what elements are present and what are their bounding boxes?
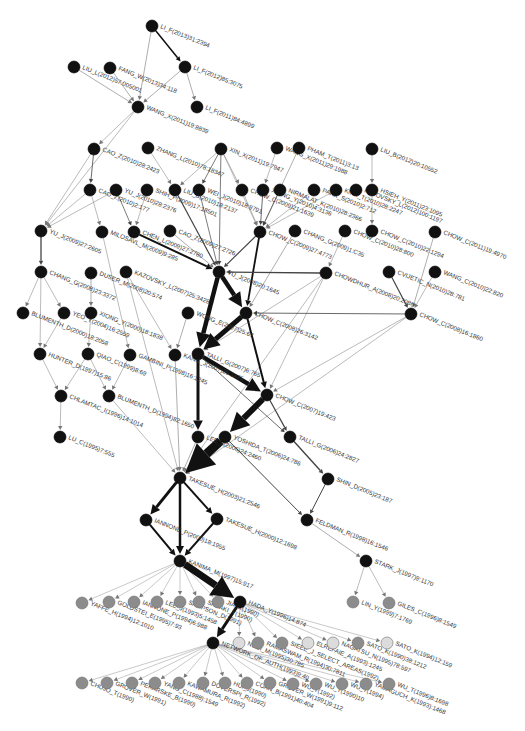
node-circle[interactable] bbox=[429, 226, 441, 238]
node-circle[interactable] bbox=[182, 307, 194, 319]
node-circle[interactable] bbox=[197, 677, 209, 689]
node-circle[interactable] bbox=[88, 143, 100, 155]
node-circle[interactable] bbox=[381, 637, 393, 649]
paper-node[interactable]: WANG_C(2010)22:820 bbox=[429, 266, 505, 299]
node-circle[interactable] bbox=[252, 637, 264, 649]
node-circle[interactable] bbox=[211, 513, 223, 525]
paper-node[interactable]: LI_F(2012)85:3075 bbox=[179, 61, 245, 90]
node-circle[interactable] bbox=[213, 266, 225, 278]
node-circle[interactable] bbox=[104, 62, 116, 74]
node-circle[interactable] bbox=[212, 596, 224, 608]
node-circle[interactable] bbox=[360, 678, 372, 690]
node-circle[interactable] bbox=[126, 677, 138, 689]
node-circle[interactable] bbox=[429, 266, 441, 278]
node-circle[interactable] bbox=[320, 267, 332, 279]
node-circle[interactable] bbox=[207, 637, 219, 649]
node-circle[interactable] bbox=[191, 101, 203, 113]
node-circle[interactable] bbox=[142, 142, 154, 154]
node-circle[interactable] bbox=[120, 266, 132, 278]
node-circle[interactable] bbox=[34, 348, 46, 360]
node-circle[interactable] bbox=[366, 143, 378, 155]
node-circle[interactable] bbox=[110, 184, 122, 196]
node-circle[interactable] bbox=[85, 307, 97, 319]
node-circle[interactable] bbox=[169, 349, 181, 361]
paper-node[interactable]: STARK_J(1997)9:1170 bbox=[360, 555, 435, 588]
paper-node[interactable]: TAKESUE_H(2003)21:2546 bbox=[174, 472, 262, 510]
node-circle[interactable] bbox=[151, 596, 163, 608]
node-circle[interactable] bbox=[219, 677, 231, 689]
node-circle[interactable] bbox=[84, 184, 96, 196]
node-circle[interactable] bbox=[264, 677, 276, 689]
node-circle[interactable] bbox=[383, 266, 395, 278]
node-circle[interactable] bbox=[293, 142, 305, 154]
node-circle[interactable] bbox=[132, 101, 144, 113]
node-circle[interactable] bbox=[101, 677, 113, 689]
node-circle[interactable] bbox=[241, 677, 253, 689]
node-circle[interactable] bbox=[308, 184, 320, 196]
node-circle[interactable] bbox=[35, 225, 47, 237]
node-circle[interactable] bbox=[347, 596, 359, 608]
node-circle[interactable] bbox=[174, 472, 186, 484]
node-circle[interactable] bbox=[405, 308, 417, 320]
node-circle[interactable] bbox=[140, 514, 152, 526]
node-circle[interactable] bbox=[236, 184, 248, 196]
node-circle[interactable] bbox=[284, 431, 296, 443]
paper-node[interactable]: LIU_B(2012)20:10552 bbox=[366, 143, 439, 175]
node-circle[interactable] bbox=[76, 677, 88, 689]
node-circle[interactable] bbox=[193, 596, 205, 608]
node-circle[interactable] bbox=[76, 597, 88, 609]
node-circle[interactable] bbox=[276, 637, 288, 649]
node-circle[interactable] bbox=[383, 597, 395, 609]
node-circle[interactable] bbox=[257, 184, 269, 196]
node-circle[interactable] bbox=[301, 514, 313, 526]
node-circle[interactable] bbox=[58, 307, 70, 319]
node-circle[interactable] bbox=[336, 678, 348, 690]
node-circle[interactable] bbox=[289, 225, 301, 237]
node-circle[interactable] bbox=[128, 596, 140, 608]
node-circle[interactable] bbox=[271, 142, 283, 154]
node-circle[interactable] bbox=[287, 678, 299, 690]
paper-node[interactable]: CHOW_C(2008)16:1860 bbox=[405, 308, 485, 343]
node-circle[interactable] bbox=[68, 61, 80, 73]
node-circle[interactable] bbox=[219, 431, 231, 443]
node-circle[interactable] bbox=[192, 431, 204, 443]
node-circle[interactable] bbox=[179, 61, 191, 73]
node-circle[interactable] bbox=[55, 390, 67, 402]
node-circle[interactable] bbox=[174, 596, 186, 608]
node-circle[interactable] bbox=[234, 596, 246, 608]
node-circle[interactable] bbox=[85, 267, 97, 279]
node-circle[interactable] bbox=[169, 184, 181, 196]
node-circle[interactable] bbox=[103, 390, 115, 402]
node-circle[interactable] bbox=[82, 348, 94, 360]
node-circle[interactable] bbox=[192, 348, 204, 360]
node-circle[interactable] bbox=[35, 266, 47, 278]
node-circle[interactable] bbox=[327, 637, 339, 649]
node-circle[interactable] bbox=[103, 596, 115, 608]
node-circle[interactable] bbox=[146, 20, 158, 32]
node-circle[interactable] bbox=[339, 225, 351, 237]
node-circle[interactable] bbox=[274, 184, 286, 196]
node-circle[interactable] bbox=[164, 225, 176, 237]
node-circle[interactable] bbox=[174, 555, 186, 567]
node-circle[interactable] bbox=[261, 389, 273, 401]
paper-node[interactable]: LI_F(2013)31:2394 bbox=[146, 20, 212, 49]
node-circle[interactable] bbox=[193, 184, 205, 196]
node-circle[interactable] bbox=[240, 307, 252, 319]
paper-node[interactable]: YU_J(2009)27:2605 bbox=[35, 225, 103, 255]
node-circle[interactable] bbox=[124, 349, 136, 361]
node-circle[interactable] bbox=[128, 226, 140, 238]
node-circle[interactable] bbox=[322, 473, 334, 485]
node-circle[interactable] bbox=[302, 637, 314, 649]
node-circle[interactable] bbox=[54, 431, 66, 443]
node-circle[interactable] bbox=[330, 184, 342, 196]
node-circle[interactable] bbox=[360, 555, 372, 567]
node-circle[interactable] bbox=[215, 143, 227, 155]
paper-node[interactable]: SHIN_D(2005)23:187 bbox=[322, 473, 394, 504]
node-circle[interactable] bbox=[366, 225, 378, 237]
node-circle[interactable] bbox=[310, 678, 322, 690]
node-circle[interactable] bbox=[350, 184, 362, 196]
paper-node[interactable]: LU_C(1995)7:555 bbox=[54, 431, 116, 459]
node-circle[interactable] bbox=[17, 307, 29, 319]
node-circle[interactable] bbox=[141, 184, 153, 196]
node-circle[interactable] bbox=[352, 637, 364, 649]
